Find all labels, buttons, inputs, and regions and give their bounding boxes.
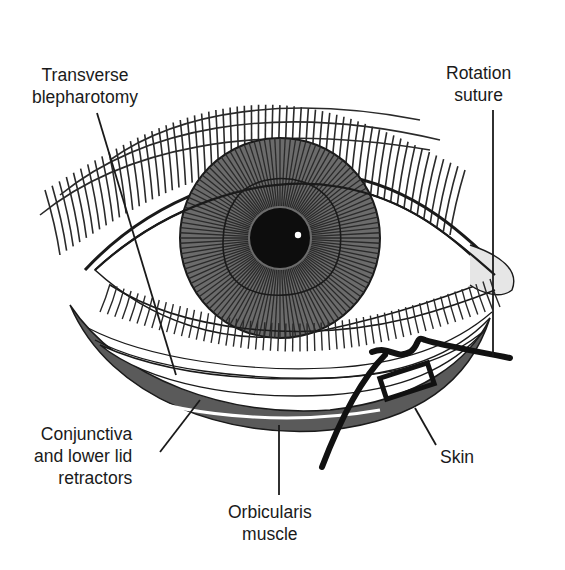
- leader-skin: [415, 408, 436, 445]
- label-rotation-suture: Rotation suture: [446, 62, 511, 106]
- label-conjunctiva-retractors: Conjunctiva and lower lid retractors: [34, 423, 132, 489]
- label-skin: Skin: [440, 446, 474, 468]
- pupil-highlight: [295, 232, 301, 238]
- eye-surgery-diagram: Transverse blepharotomy Rotation suture …: [0, 0, 565, 570]
- pupil: [250, 208, 310, 268]
- label-transverse-blepharotomy: Transverse blepharotomy: [32, 64, 138, 108]
- label-orbicularis-muscle: Orbicularis muscle: [228, 501, 312, 545]
